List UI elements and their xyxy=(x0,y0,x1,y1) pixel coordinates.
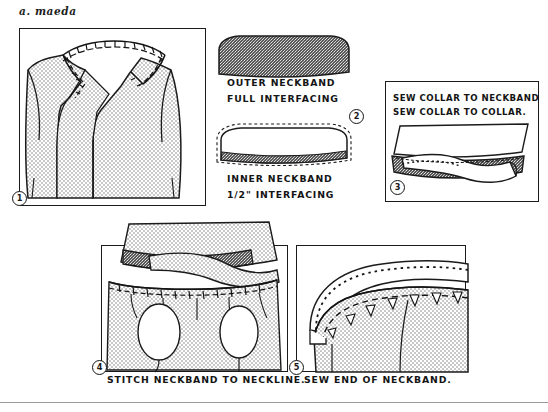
instruction-sheet: a. maeda xyxy=(0,0,548,412)
panel-4-illustration xyxy=(101,220,293,372)
step-number-1: 1 xyxy=(12,191,27,206)
label-sew-collar-to-collar: SEW COLLAR TO COLLAR. xyxy=(393,107,526,117)
page-title: a. maeda xyxy=(19,5,77,17)
caption-panel-4: STITCH NECKBAND TO NECKLINE. xyxy=(107,374,305,385)
label-full-interfacing: FULL INTERFACING xyxy=(227,93,339,104)
step-number-2: 2 xyxy=(349,109,364,124)
footer-divider xyxy=(0,402,548,403)
step-number-4: 4 xyxy=(92,360,107,375)
label-half-inch-interfacing: 1/2" INTERFACING xyxy=(227,189,334,200)
label-sew-collar-to-neckband: SEW COLLAR TO NECKBAND xyxy=(393,93,539,103)
label-inner-neckband: INNER NECKBAND xyxy=(227,173,333,184)
panel-3-illustration xyxy=(386,118,538,198)
caption-panel-5: SEW END OF NECKBAND. xyxy=(304,374,452,385)
panel-1-illustration xyxy=(19,28,209,208)
step-number-5: 5 xyxy=(289,360,304,375)
panel-5-illustration xyxy=(296,238,468,372)
label-outer-neckband: OUTER NECKBAND xyxy=(227,77,335,88)
panel-2-illustration xyxy=(215,32,355,177)
step-number-3: 3 xyxy=(390,180,405,195)
